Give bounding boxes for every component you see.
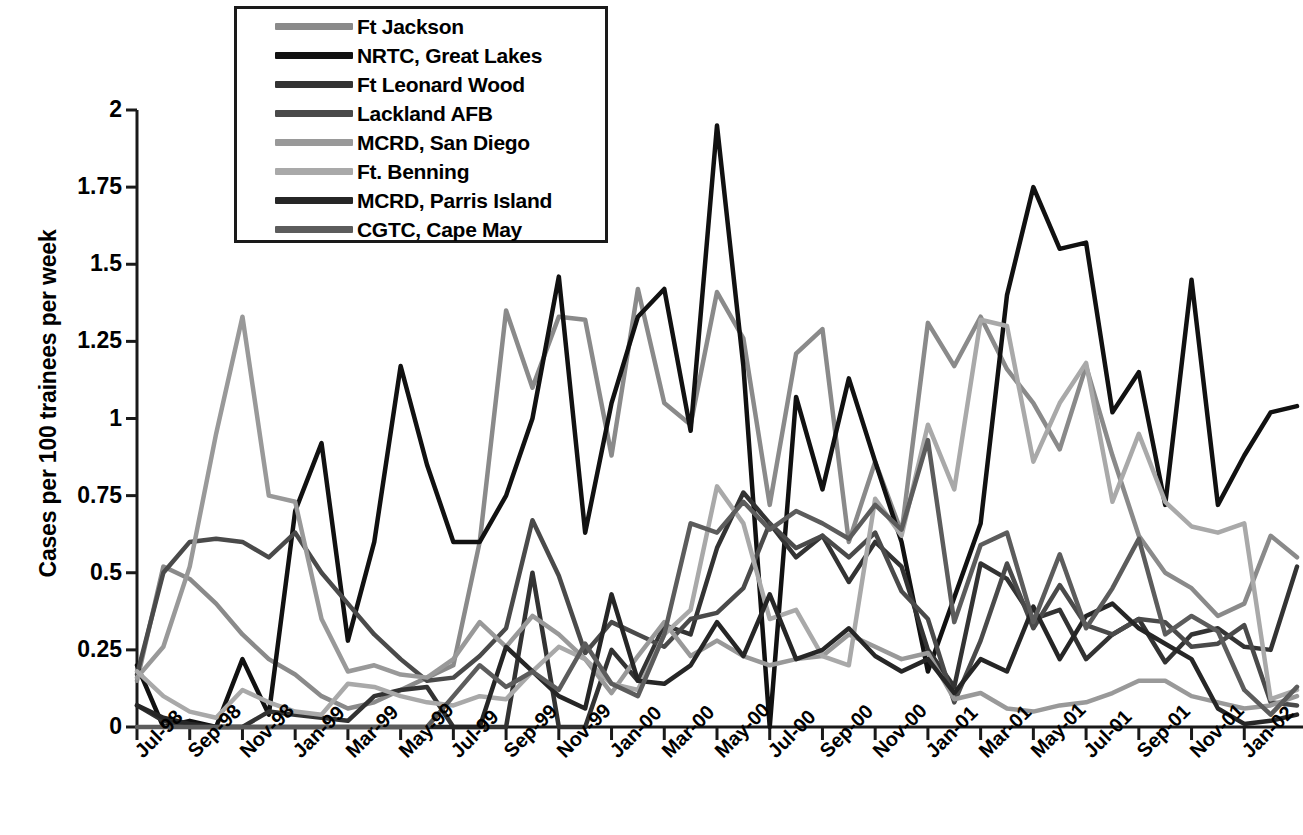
series-line-5 [137,320,1297,718]
legend-color-swatch-icon [275,197,353,204]
legend-item[interactable]: Ft. Benning [237,157,611,186]
legend-item[interactable]: MCRD, Parris Island [237,186,611,215]
legend-item[interactable]: CGTC, Cape May [237,215,611,244]
legend-color-swatch-icon [275,81,353,88]
legend-item-label: MCRD, San Diego [357,131,530,155]
legend-color-swatch-icon [275,139,353,146]
legend-item-label: Ft Jackson [357,15,464,39]
legend-item-label: Ft. Benning [357,160,469,184]
legend-color-swatch-icon [275,23,353,30]
legend-color-swatch-icon [275,52,353,59]
legend-color-swatch-icon [275,110,353,117]
legend-item-label: NRTC, Great Lakes [357,44,542,68]
legend-item[interactable]: Lackland AFB [237,99,611,128]
chart-root: Cases per 100 trainees per week 00.250.5… [0,0,1303,835]
series-line-0 [137,289,1297,709]
legend-item-label: MCRD, Parris Island [357,189,552,213]
legend-item[interactable]: Ft Leonard Wood [237,70,611,99]
legend-color-swatch-icon [275,226,353,233]
series-line-2 [137,493,1297,727]
legend-item[interactable]: NRTC, Great Lakes [237,41,611,70]
chart-legend: Ft JacksonNRTC, Great LakesFt Leonard Wo… [234,6,608,243]
legend-item[interactable]: Ft Jackson [237,12,611,41]
legend-item-label: CGTC, Cape May [357,218,522,242]
legend-item-label: Lackland AFB [357,102,493,126]
series-line-4 [137,317,1297,712]
legend-item[interactable]: MCRD, San Diego [237,128,611,157]
legend-item-label: Ft Leonard Wood [357,73,525,97]
legend-color-swatch-icon [275,168,353,175]
